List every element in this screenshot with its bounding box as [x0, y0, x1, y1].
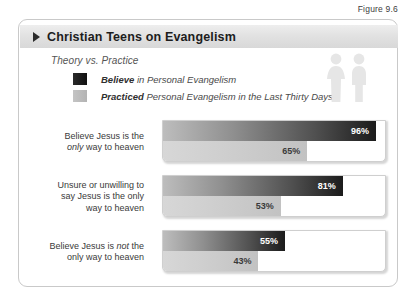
legend-label-believe: Believe in Personal Evangelism	[101, 74, 236, 85]
bar-track: 96% 65%	[162, 120, 386, 162]
bar-category-label: Unsure or unwilling tosay Jesus is the o…	[32, 174, 144, 220]
bar-group: Believe Jesus is theonly way to heaven 9…	[20, 119, 398, 165]
bar-value-believe: 96%	[351, 126, 376, 136]
bar-category-label: Believe Jesus is not theonly way to heav…	[32, 229, 144, 275]
bar-practiced: 65%	[163, 141, 307, 161]
triangle-right-icon	[33, 32, 40, 42]
bar-practiced: 43%	[163, 251, 258, 271]
two-people-icon	[319, 52, 377, 102]
bar-track: 81% 53%	[162, 175, 386, 217]
bar-believe: 55%	[163, 231, 285, 251]
bar-chart: Believe Jesus is theonly way to heaven 9…	[20, 119, 398, 285]
bar-value-practiced: 43%	[233, 256, 258, 266]
legend-swatch-light-icon	[73, 90, 87, 102]
figure-card: Christian Teens on Evangelism Theory vs.…	[18, 19, 398, 287]
page-title: Christian Teens on Evangelism	[47, 30, 236, 44]
figure-caption: Figure 9.6	[358, 4, 398, 14]
bar-group: Believe Jesus is not theonly way to heav…	[20, 229, 398, 275]
legend-label-practiced: Practiced Personal Evangelism in the Las…	[101, 91, 333, 102]
legend-swatch-dark-icon	[73, 73, 87, 85]
bar-group: Unsure or unwilling tosay Jesus is the o…	[20, 174, 398, 220]
bar-track: 55% 43%	[162, 230, 386, 272]
bar-category-label: Believe Jesus is theonly way to heaven	[32, 119, 144, 165]
card-header: Christian Teens on Evangelism	[20, 25, 398, 48]
bar-believe: 81%	[163, 176, 343, 196]
bar-believe: 96%	[163, 121, 376, 141]
bar-value-believe: 81%	[318, 181, 343, 191]
bar-practiced: 53%	[163, 196, 281, 216]
bar-value-practiced: 65%	[282, 146, 307, 156]
bar-value-believe: 55%	[260, 236, 285, 246]
bar-value-practiced: 53%	[256, 201, 281, 211]
